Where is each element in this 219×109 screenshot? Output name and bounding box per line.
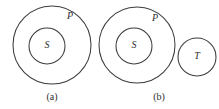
outer-set-circle [99,7,175,83]
set-diagram-canvas: PS(a)PST(b) [0,0,219,109]
panel-caption: (b) [153,91,165,103]
set-label-S: S [45,39,50,50]
set-label-S: S [132,39,137,50]
panels-group: PS(a)PST(b) [13,6,216,103]
set-label-T: T [194,50,201,61]
panel-a: PS(a) [13,6,91,103]
set-label-P: P [66,10,73,21]
panel-b: PST(b) [99,7,216,103]
set-label-P: P [151,12,158,23]
figure-container: PS(a)PST(b) [0,0,219,109]
panel-caption: (a) [46,91,57,103]
outer-set-circle [13,6,91,84]
